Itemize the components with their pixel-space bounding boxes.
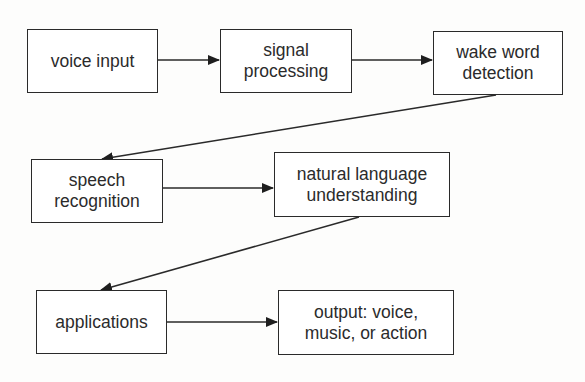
- voice-assistant-pipeline-diagram: voice input signal processing wake word …: [0, 0, 585, 382]
- arrow-wake-word-detection-to-speech-recognition: [102, 95, 496, 159]
- node-label: speech recognition: [54, 170, 140, 212]
- arrow-nlu-to-applications: [101, 217, 359, 290]
- node-output: output: voice, music, or action: [278, 290, 454, 355]
- node-signal-processing: signal processing: [220, 29, 352, 93]
- node-speech-recognition: speech recognition: [31, 159, 163, 223]
- node-label: output: voice, music, or action: [305, 302, 428, 344]
- node-label: signal processing: [244, 40, 329, 82]
- node-voice-input: voice input: [27, 29, 158, 93]
- node-natural-language-understanding: natural language understanding: [274, 152, 450, 217]
- node-label: wake word detection: [456, 42, 540, 84]
- node-label: voice input: [51, 51, 135, 72]
- node-wake-word-detection: wake word detection: [433, 31, 563, 95]
- node-applications: applications: [36, 290, 167, 354]
- node-label: applications: [55, 312, 147, 333]
- node-label: natural language understanding: [297, 164, 427, 206]
